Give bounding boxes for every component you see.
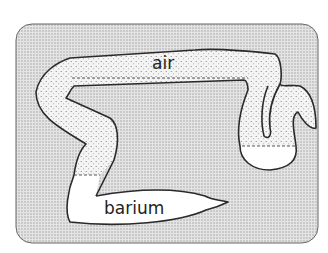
diagram: air barium xyxy=(0,0,328,253)
barium-label: barium xyxy=(104,198,164,218)
air-label: air xyxy=(152,53,174,73)
